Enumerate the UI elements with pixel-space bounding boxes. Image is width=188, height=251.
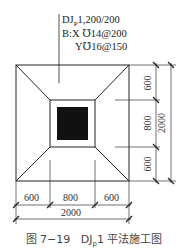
dim-right-bottom: 600 xyxy=(143,157,153,172)
rebar-x-label: B:X ℧14@200 xyxy=(62,28,127,40)
dim-right-top: 600 xyxy=(143,76,153,91)
figure-caption: 图 7−19 DJp1 平法施工图 xyxy=(0,230,188,248)
dim-right-total: 2000 xyxy=(157,113,167,133)
column xyxy=(57,107,88,140)
dim-bottom-total: 2000 xyxy=(61,208,81,218)
dim-bottom-left: 600 xyxy=(24,193,39,203)
dim-bottom-right: 600 xyxy=(104,193,119,203)
dim-right-middle: 800 xyxy=(143,116,153,131)
dim-bottom-middle: 800 xyxy=(63,193,78,203)
rebar-y-label: Y℧16@150 xyxy=(75,41,127,53)
